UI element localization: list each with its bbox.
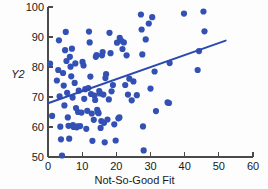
data-point [93,52,99,58]
y-tick-label: 90 [32,31,44,43]
data-point [72,60,78,66]
data-point [146,20,152,26]
x-axis-ticks: 0102030405060 [45,152,259,172]
data-point [138,11,144,17]
y-tick-label: 50 [32,151,44,163]
data-point [86,29,92,35]
y-tick-label: 80 [32,61,44,73]
data-point [89,138,95,144]
data-point [68,73,74,79]
data-point [140,123,146,129]
data-point [116,114,122,120]
x-tick-label: 30 [144,160,156,172]
data-point [141,147,147,153]
data-point [147,86,153,92]
data-point [77,123,83,129]
data-point [130,78,136,84]
data-point [100,92,106,98]
data-point [166,100,172,106]
data-point [92,97,98,103]
y-tick-label: 100 [26,1,44,13]
data-point [123,52,129,58]
data-point [119,46,125,52]
data-point [107,50,113,56]
data-point [87,74,93,80]
data-point [78,110,84,116]
data-point [106,30,112,36]
scatter-plot-figure: 5060708090100 0102030405060 Not-So-Good … [0,0,268,189]
data-point [102,139,108,145]
data-point [60,70,66,76]
data-point [113,137,119,143]
data-point [110,82,116,88]
data-point [63,29,69,35]
data-point [95,110,101,116]
data-point [59,152,65,158]
data-point [87,39,93,45]
data-point [181,11,187,17]
x-tick-label: 50 [213,160,225,172]
data-point [103,71,109,77]
data-point [121,39,127,45]
y-axis-ticks: 5060708090100 [26,1,53,163]
data-point [58,136,64,142]
plot-axes [48,7,253,157]
data-point [67,54,73,60]
data-point [61,102,67,108]
data-point [47,61,53,67]
data-point [69,46,75,52]
data-point [91,117,97,123]
data-point [139,26,145,32]
x-tick-label: 20 [110,160,122,172]
chart-canvas: 5060708090100 0102030405060 Not-So-Good … [0,0,268,189]
data-point [125,92,131,98]
data-point [89,110,95,116]
data-point [72,80,78,86]
data-point [104,116,110,122]
x-tick-label: 10 [76,160,88,172]
data-points-group [47,8,208,158]
data-point [195,67,201,73]
data-point [122,82,128,88]
data-point [54,77,60,83]
data-point [66,136,72,142]
data-point [152,68,158,74]
data-point [83,126,89,132]
x-tick-label: 40 [179,160,191,172]
data-point [56,37,62,43]
data-point [81,96,87,102]
data-point [201,28,207,34]
x-tick-label: 60 [247,160,259,172]
y-axis-title: Y2 [11,68,24,80]
y-tick-label: 70 [32,91,44,103]
data-point [153,108,159,114]
data-point [49,113,55,119]
data-point [139,51,145,57]
data-point [65,114,71,120]
data-point [111,121,117,127]
data-point [57,124,63,130]
y-tick-label: 60 [32,121,44,133]
data-point [134,92,140,98]
data-point [80,62,86,68]
x-tick-label: 0 [45,160,51,172]
data-point [106,96,112,102]
data-point [149,14,155,20]
data-point [100,49,106,55]
x-axis-title: Not-So-Good Fit [94,174,174,186]
data-point [129,97,135,103]
data-point [200,8,206,14]
data-point [108,88,114,94]
data-point [98,125,104,131]
data-point [62,47,68,53]
data-point [61,83,67,89]
data-point [143,36,149,42]
